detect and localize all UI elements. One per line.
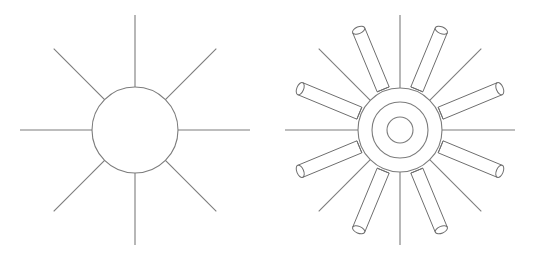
diagram-canvas	[0, 0, 538, 260]
